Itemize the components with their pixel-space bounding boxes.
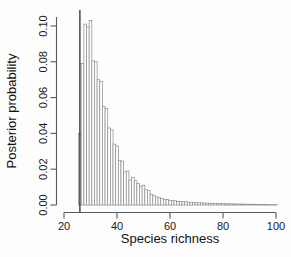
y-tick-label: 0.10	[37, 15, 49, 36]
histogram-bar	[182, 202, 185, 205]
histogram-bar	[206, 203, 209, 205]
y-axis-ticks	[51, 26, 57, 205]
histogram-bar	[145, 190, 148, 205]
histogram-bar	[203, 203, 206, 205]
histogram-bar	[134, 181, 137, 205]
histogram-bar	[248, 204, 251, 205]
x-axis-ticks	[64, 213, 276, 219]
histogram-bars	[79, 21, 278, 205]
histogram-bar	[227, 204, 230, 205]
histogram-bar	[222, 204, 225, 205]
histogram-bar	[261, 204, 264, 205]
histogram-bar	[113, 144, 116, 205]
histogram-bar	[243, 204, 246, 205]
histogram-bar	[187, 202, 190, 205]
histogram-bar	[124, 172, 127, 205]
histogram-bar	[256, 204, 259, 205]
histogram-bar	[208, 203, 211, 205]
histogram-bar	[121, 161, 124, 205]
histogram-bar	[81, 64, 84, 205]
y-tick-label: 0.00	[37, 194, 49, 215]
histogram-bar	[198, 203, 201, 205]
histogram-bar	[193, 202, 196, 205]
y-tick-label: 0.08	[37, 51, 49, 72]
histogram-bar	[230, 204, 233, 205]
histogram-bar	[179, 201, 182, 205]
histogram-bar	[259, 204, 262, 205]
histogram-bar	[87, 27, 90, 205]
histogram-bar	[200, 203, 203, 205]
histogram-bar	[253, 204, 256, 205]
histogram-bar	[195, 203, 198, 205]
y-tick-label: 0.04	[37, 123, 49, 144]
histogram-bar	[84, 24, 87, 205]
x-tick-label: 20	[58, 220, 70, 232]
histogram-bar	[147, 191, 150, 205]
histogram-bar	[140, 186, 143, 205]
histogram-bar	[137, 184, 140, 205]
histogram-bar	[232, 204, 235, 205]
histogram-bar	[161, 199, 164, 205]
histogram-bar	[126, 171, 129, 205]
histogram-bar	[110, 130, 113, 205]
y-axis-title: Posterior probability	[4, 53, 19, 168]
y-tick-label: 0.02	[37, 158, 49, 179]
histogram-bar	[97, 80, 100, 205]
x-axis-title: Species richness	[121, 231, 220, 246]
histogram-bar	[94, 62, 97, 205]
histogram-bar	[240, 204, 243, 205]
histogram-bar	[235, 204, 238, 205]
histogram-bar	[129, 180, 132, 205]
histogram-bar	[166, 200, 169, 205]
histogram-bar	[190, 202, 193, 205]
histogram-bar	[219, 204, 222, 205]
histogram-bar	[108, 128, 111, 205]
x-tick-label: 100	[267, 220, 285, 232]
histogram-bar	[158, 198, 161, 205]
histogram-bar	[153, 196, 156, 205]
histogram-bar	[163, 199, 166, 205]
histogram-bar	[171, 201, 174, 205]
histogram-bar	[211, 203, 214, 205]
histogram-bar	[216, 204, 219, 205]
histogram-bar	[132, 177, 135, 205]
histogram-bar	[264, 204, 267, 205]
y-tick-label: 0.06	[37, 87, 49, 108]
histogram-bar	[185, 202, 188, 205]
histogram-bar	[169, 200, 172, 205]
histogram-bar	[105, 108, 108, 205]
histogram-bar	[150, 194, 153, 205]
histogram-bar	[116, 146, 119, 205]
histogram-bar	[118, 160, 121, 205]
histogram-bar	[100, 81, 103, 205]
y-axis-tick-labels: 0.000.020.040.060.080.10	[37, 15, 49, 215]
histogram-bar	[177, 201, 180, 205]
histogram-bar	[142, 185, 145, 205]
chart-canvas: 0.000.020.040.060.080.10 20406080100 Spe…	[0, 0, 291, 257]
histogram-bar	[89, 21, 92, 205]
histogram-bar	[251, 204, 254, 205]
histogram-bar	[224, 204, 227, 205]
posterior-richness-histogram-figure: 0.000.020.040.060.080.10 20406080100 Spe…	[0, 0, 291, 257]
histogram-bar	[174, 201, 177, 205]
histogram-bar	[214, 203, 217, 205]
histogram-bar	[155, 197, 158, 205]
histogram-bar	[246, 204, 249, 205]
histogram-bar	[92, 61, 95, 205]
histogram-bar	[238, 204, 241, 205]
histogram-bar	[102, 107, 105, 205]
